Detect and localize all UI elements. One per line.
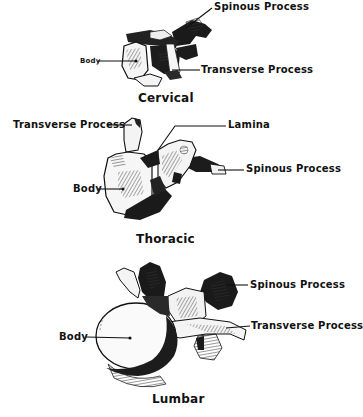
cervical-spinous-process-label: Spinous Process (214, 1, 309, 12)
thoracic-lamina-label: Lamina (228, 119, 270, 130)
cervical-title: Cervical (138, 91, 194, 105)
lumbar-spinous-process-label: Spinous Process (250, 279, 345, 290)
lumbar-title: Lumbar (152, 392, 205, 406)
thoracic-body-label: Body (73, 183, 102, 194)
thoracic-title: Thoracic (136, 232, 195, 246)
lumbar-transverse-process-label: Transverse Process (251, 320, 363, 331)
lumbar-vertebra-drawing (86, 262, 250, 387)
cervical-body-label: Body (80, 57, 101, 65)
thoracic-spinous-process-label: Spinous Process (246, 163, 341, 174)
thoracic-transverse-process-label: Transverse Process (13, 119, 125, 130)
cervical-vertebra-drawing (98, 8, 212, 86)
thoracic-vertebra-drawing (98, 118, 244, 220)
lumbar-body-label: Body (59, 331, 88, 342)
cervical-transverse-process-label: Transverse Process (201, 64, 313, 75)
